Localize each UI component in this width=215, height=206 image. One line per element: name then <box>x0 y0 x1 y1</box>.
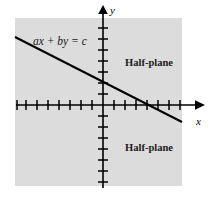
coordinate-plane-svg: ax + by = c y x Half-plane Half-plane <box>0 0 215 206</box>
x-axis-label: x <box>195 115 201 127</box>
half-plane-upper-label: Half-plane <box>125 57 173 68</box>
equation-label: ax + by = c <box>33 35 87 48</box>
x-axis-arrowhead <box>195 100 205 110</box>
half-plane-lower-label: Half-plane <box>125 142 173 153</box>
y-axis-arrowhead <box>98 5 108 14</box>
half-plane-figure: ax + by = c y x Half-plane Half-plane <box>0 0 215 206</box>
y-axis-label: y <box>109 4 115 16</box>
